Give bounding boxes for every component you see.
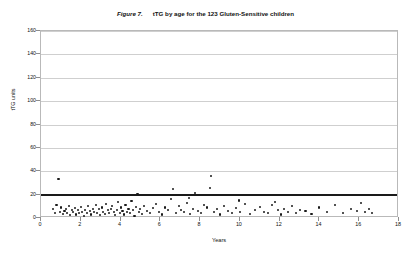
x-tick-mark <box>239 217 240 221</box>
x-tick-mark <box>40 217 41 221</box>
figure-container: Figure 7.tTG by age for the 123 Gluten-S… <box>0 0 411 255</box>
x-tick-label: 10 <box>226 221 252 228</box>
y-tick-label: 20 <box>8 191 36 197</box>
x-tick-label: 18 <box>385 221 411 228</box>
threshold-line-layer <box>41 31 397 216</box>
x-tick-label: 12 <box>266 221 292 228</box>
y-tick-label: 60 <box>8 144 36 150</box>
x-tick-mark <box>358 217 359 221</box>
x-tick-label: 4 <box>107 221 133 228</box>
threshold-line <box>41 194 397 196</box>
x-tick-mark <box>199 217 200 221</box>
y-tick-label: 160 <box>8 27 36 33</box>
plot-area <box>40 30 398 217</box>
x-tick-label: 8 <box>186 221 212 228</box>
x-tick-mark <box>80 217 81 221</box>
figure-label: Figure 7. <box>117 10 143 17</box>
x-tick-label: 6 <box>146 221 172 228</box>
x-tick-mark <box>279 217 280 221</box>
x-tick-mark <box>159 217 160 221</box>
y-axis-title: tTG units <box>10 70 17 130</box>
x-axis-title: Years <box>40 237 398 244</box>
x-tick-label: 0 <box>27 221 53 228</box>
y-tick-label: 40 <box>8 167 36 173</box>
x-tick-mark <box>120 217 121 221</box>
figure-caption: tTG by age for the 123 Gluten-Sensitive … <box>143 10 294 17</box>
y-tick-mark <box>36 217 40 218</box>
page-title: Figure 7.tTG by age for the 123 Gluten-S… <box>0 10 411 18</box>
x-tick-label: 2 <box>67 221 93 228</box>
x-tick-mark <box>398 217 399 221</box>
y-tick-label: 0 <box>8 214 36 220</box>
x-tick-label: 14 <box>305 221 331 228</box>
x-tick-mark <box>318 217 319 221</box>
y-tick-label: 140 <box>8 50 36 56</box>
x-tick-label: 16 <box>345 221 371 228</box>
